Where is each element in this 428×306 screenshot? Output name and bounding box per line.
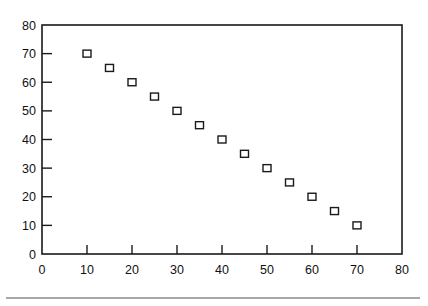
x-tick-label: 50 [260,263,274,277]
data-point-square-marker [331,208,339,215]
data-point-square-marker [151,93,159,100]
y-tick-label: 50 [22,104,36,118]
data-point-square-marker [353,222,361,229]
data-point-square-marker [128,79,136,86]
x-tick-label: 80 [395,263,409,277]
data-point-square-marker [263,165,271,172]
data-point-square-marker [286,179,294,186]
data-point-square-marker [196,122,204,129]
y-tick-label: 20 [22,190,36,204]
data-point-square-marker [241,150,249,157]
x-tick-label: 10 [80,263,94,277]
x-axis-ticks: 01020304050607080 [39,245,409,277]
y-tick-label: 40 [22,133,36,147]
data-point-square-marker [173,107,181,114]
x-tick-label: 70 [350,263,364,277]
x-tick-label: 20 [125,263,139,277]
y-axis-ticks: 01020304050607080 [22,19,52,262]
bottom-divider [6,297,420,299]
data-point-square-marker [83,50,91,57]
x-tick-label: 0 [39,263,46,277]
data-point-square-marker [106,64,114,71]
data-point-square-marker [308,193,316,200]
x-tick-label: 30 [170,263,184,277]
x-tick-label: 40 [215,263,229,277]
y-tick-label: 30 [22,162,36,176]
y-tick-label: 70 [22,47,36,61]
data-points [83,50,361,229]
y-tick-label: 60 [22,76,36,90]
scatter-chart: 01020304050607080 01020304050607080 [0,0,428,306]
y-tick-label: 0 [29,248,36,262]
x-tick-label: 60 [305,263,319,277]
y-tick-label: 80 [22,19,36,33]
y-tick-label: 10 [22,219,36,233]
data-point-square-marker [218,136,226,143]
